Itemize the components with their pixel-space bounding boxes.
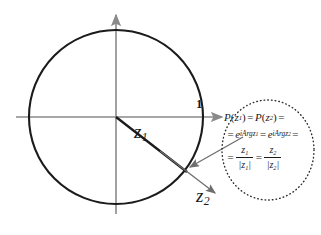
fraction-z2: z2|z2| [264,144,281,170]
equals-2b: = [260,128,266,140]
label-unit-one: 1 [196,97,203,110]
label-z1-base: z [134,121,141,142]
complex-plane-figure: z1 z2 1 P(z1)=P(z2)= =eiArgz1=eiArgz2= =… [0,0,321,235]
label-z2-subscript: 2 [204,195,210,208]
fraction-z1-denominator: |z1| [236,158,253,171]
fraction-z1: z1|z1| [236,144,253,170]
label-z1: z1 [134,122,148,144]
equals-1a: = [247,111,253,123]
label-z2-base: z [196,185,203,206]
formula-line-1: P(z1)=P(z2)= [224,111,314,123]
euler-exponent-1-sub: 1 [256,131,259,137]
equals-3a: = [228,151,234,163]
fraction-z2-den-close: | [276,159,279,170]
fraction-z2-numerator: z2 [267,144,278,157]
formula-line-2: =eiArgz1=eiArgz2= [226,128,314,140]
fn-p-1: P [224,111,231,123]
fraction-z1-numerator: z1 [239,144,250,157]
equals-2c: = [292,128,298,140]
fraction-z2-denominator: |z2| [265,158,282,171]
formula-callout: P(z1)=P(z2)= =eiArgz1=eiArgz2= =z1|z1|=z… [224,111,314,170]
fraction-z1-num-sub: 1 [245,149,248,156]
fn-p-2: P [255,111,262,123]
fraction-z2-num-sub: 2 [273,149,276,156]
equals-3b: = [256,151,262,163]
label-z2: z2 [196,186,210,208]
label-z1-subscript: 1 [142,131,148,144]
paren-close-1: ) [242,111,246,123]
formula-line-3: =z1|z1|=z2|z2| [226,144,314,170]
fraction-z1-den-close: | [248,159,251,170]
euler-exponent-2-sub: 2 [288,131,291,137]
euler-exponent-1: iArg [240,130,253,138]
euler-exponent-2: iArg [273,130,286,138]
paren-close-2: ) [273,111,277,123]
equals-1b: = [278,111,284,123]
equals-2a: = [228,128,234,140]
